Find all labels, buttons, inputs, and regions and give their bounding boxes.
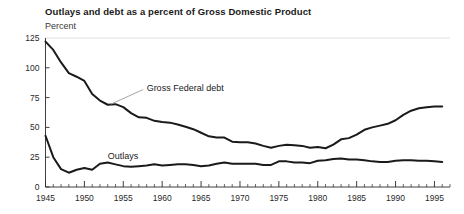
y-axis-tick-label: 25 <box>30 152 40 162</box>
x-axis-major-tick-group: 1945195019551960196519701975198019851990… <box>36 181 444 203</box>
series-label-outlays: Outlays <box>108 151 139 161</box>
annotation-leader-group <box>111 90 143 105</box>
x-axis-tick-label: 1985 <box>347 193 366 203</box>
series-line-outlays <box>46 136 443 173</box>
y-axis-tick-label: 50 <box>30 122 40 132</box>
chart-svg: 0255075100125 19451950195519601965197019… <box>0 0 464 214</box>
gross-federal-debt-leader-line <box>111 90 143 105</box>
x-axis-tick-label: 1980 <box>308 193 327 203</box>
chart-figure: Outlays and debt as a percent of Gross D… <box>0 0 464 214</box>
data-series-group <box>46 42 443 173</box>
chart-plot-area: 0255075100125 19451950195519601965197019… <box>0 0 464 214</box>
y-axis-tick-label: 100 <box>25 63 39 73</box>
x-axis-tick-label: 1950 <box>75 193 94 203</box>
series-label-gross-federal-debt: Gross Federal debt <box>147 83 225 93</box>
y-axis-tick-label: 0 <box>35 182 40 192</box>
series-line-gross-federal-debt <box>46 42 443 149</box>
x-axis-tick-label: 1945 <box>36 193 55 203</box>
x-axis-tick-label: 1960 <box>153 193 172 203</box>
x-axis-tick-label: 1970 <box>231 193 250 203</box>
x-axis-tick-label: 1990 <box>386 193 405 203</box>
y-axis-tick-label: 125 <box>25 33 39 43</box>
x-axis-tick-label: 1995 <box>425 193 444 203</box>
x-axis-tick-label: 1955 <box>114 193 133 203</box>
x-axis-tick-label: 1965 <box>192 193 211 203</box>
y-axis-tick-label: 75 <box>30 93 40 103</box>
x-axis-tick-label: 1975 <box>269 193 288 203</box>
